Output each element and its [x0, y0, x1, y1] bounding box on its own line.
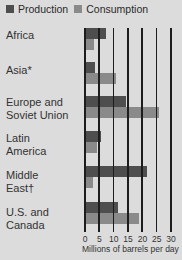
consumption-bar: [84, 107, 159, 118]
legend-label-production: Production: [18, 2, 68, 16]
x-tick-label: 30: [166, 234, 175, 244]
label-line: Asia*: [6, 64, 32, 77]
row-label-africa: Africa: [6, 29, 34, 42]
gridline: [170, 28, 172, 232]
x-tick-label: 15: [123, 234, 132, 244]
consumption-swatch: [74, 5, 82, 13]
production-bar: [84, 28, 106, 39]
label-line: East†: [6, 182, 38, 195]
label-line: Middle: [6, 169, 38, 182]
label-line: Africa: [6, 29, 34, 42]
legend-item-production: Production: [6, 2, 68, 16]
gridline: [113, 28, 115, 232]
x-tick-label: 20: [138, 234, 147, 244]
legend-label-consumption: Consumption: [86, 2, 148, 16]
x-tick-label: 25: [152, 234, 161, 244]
row-label-latin-america: Latin America: [6, 132, 46, 158]
legend-item-consumption: Consumption: [74, 2, 148, 16]
production-swatch: [6, 5, 14, 13]
label-line: Europe and: [6, 96, 68, 109]
gridline: [127, 28, 129, 232]
label-line: America: [6, 145, 46, 158]
label-line: Canada: [6, 219, 49, 232]
row-label-middle-east: Middle East†: [6, 169, 38, 195]
row-label-us-canada: U.S. and Canada: [6, 206, 49, 232]
gridline: [156, 28, 158, 232]
chart-legend: Production Consumption: [6, 2, 154, 16]
label-line: Latin: [6, 132, 46, 145]
gridline: [141, 28, 143, 232]
label-line: Soviet Union: [6, 109, 68, 122]
x-tick-label: 5: [97, 234, 102, 244]
gridline: [98, 28, 100, 232]
row-label-asia: Asia*: [6, 64, 32, 77]
consumption-bar: [84, 213, 139, 224]
production-bar: [84, 166, 147, 177]
label-line: U.S. and: [6, 206, 49, 219]
x-axis-label: Millions of barrels per day: [82, 244, 179, 254]
row-label-europe: Europe and Soviet Union: [6, 96, 68, 122]
x-tick-label: 10: [109, 234, 118, 244]
plot-area: [84, 28, 174, 232]
y-axis-line: [84, 28, 86, 232]
production-bar: [84, 96, 126, 107]
x-tick-label: 0: [83, 234, 88, 244]
